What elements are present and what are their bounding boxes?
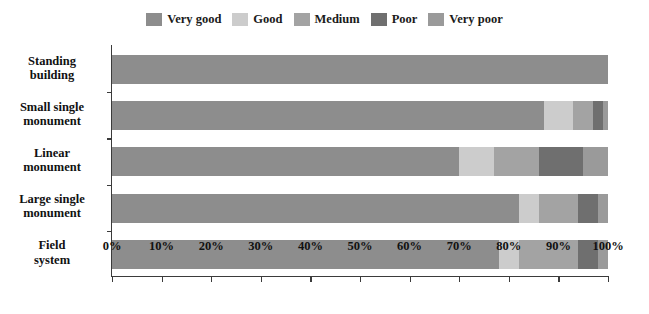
bar-segment-good[interactable] <box>459 147 494 176</box>
x-axis-tick <box>608 276 609 282</box>
x-axis-tick <box>459 276 460 282</box>
legend-swatch-good <box>232 13 248 26</box>
category-label-line: Linear <box>4 146 100 160</box>
legend-label: Poor <box>392 13 418 26</box>
y-axis-tick <box>107 138 112 139</box>
bar-segment-very-poor[interactable] <box>583 147 608 176</box>
y-axis-tick <box>107 92 112 93</box>
bar-segment-very-good[interactable] <box>112 194 519 223</box>
category-label-line: Large single <box>4 192 100 206</box>
x-axis-tick <box>360 276 361 282</box>
y-axis-tick <box>107 231 112 232</box>
legend-entry[interactable]: Poor <box>371 13 418 26</box>
category-label-line: Small single <box>4 100 100 114</box>
bar-segment-very-good[interactable] <box>112 55 608 84</box>
x-axis-tick-label: 20% <box>184 240 238 253</box>
category-label-small-single-monument: Small singlemonument <box>4 100 100 129</box>
x-axis-tick <box>310 276 311 282</box>
chart-legend: Very goodGoodMediumPoorVery poor <box>0 13 649 26</box>
x-axis-tick-label: 100% <box>581 240 635 253</box>
bar-row[interactable] <box>112 55 608 84</box>
bar-row[interactable] <box>112 194 608 223</box>
x-axis-tick <box>211 276 212 282</box>
category-label-line: Standing <box>4 54 100 68</box>
category-label-linear-monument: Linearmonument <box>4 146 100 175</box>
bar-segment-poor[interactable] <box>593 101 603 130</box>
bar-segment-good[interactable] <box>544 101 574 130</box>
legend-entry[interactable]: Very good <box>146 13 221 26</box>
x-axis-tick-label: 30% <box>234 240 288 253</box>
legend-entry[interactable]: Good <box>232 13 282 26</box>
x-axis-tick <box>162 276 163 282</box>
x-axis-tick <box>509 276 510 282</box>
legend-label: Good <box>253 13 282 26</box>
bar-segment-medium[interactable] <box>494 147 539 176</box>
category-label-line: monument <box>4 114 100 128</box>
bar-row[interactable] <box>112 147 608 176</box>
legend-swatch-very-poor <box>428 13 444 26</box>
legend-label: Very good <box>167 13 221 26</box>
x-axis-tick-label: 90% <box>531 240 585 253</box>
legend-swatch-poor <box>371 13 387 26</box>
legend-swatch-medium <box>294 13 310 26</box>
bar-segment-poor[interactable] <box>578 194 598 223</box>
x-axis-tick <box>558 276 559 282</box>
bar-segment-good[interactable] <box>519 194 539 223</box>
bar-row[interactable] <box>112 101 608 130</box>
bar-segment-very-poor[interactable] <box>598 194 608 223</box>
bar-segment-very-good[interactable] <box>112 147 459 176</box>
bar-segment-medium[interactable] <box>539 194 579 223</box>
category-label-standing-building: Standingbuilding <box>4 54 100 83</box>
x-axis-tick-label: 60% <box>383 240 437 253</box>
category-label-line: monument <box>4 206 100 220</box>
legend-label: Very poor <box>449 13 502 26</box>
category-label-large-single-monument: Large singlemonument <box>4 192 100 221</box>
x-axis-tick-label: 80% <box>482 240 536 253</box>
x-axis-tick-label: 50% <box>333 240 387 253</box>
bar-segment-very-poor[interactable] <box>603 101 608 130</box>
x-axis-tick <box>410 276 411 282</box>
y-axis-tick <box>107 185 112 186</box>
bar-segment-poor[interactable] <box>539 147 584 176</box>
category-label-line: monument <box>4 160 100 174</box>
bar-segment-very-good[interactable] <box>112 101 544 130</box>
x-axis-tick-label: 10% <box>135 240 189 253</box>
legend-entry[interactable]: Medium <box>294 13 360 26</box>
x-axis-tick-label: 0% <box>85 240 139 253</box>
legend-label: Medium <box>315 13 360 26</box>
legend-entry[interactable]: Very poor <box>428 13 502 26</box>
bar-segment-medium[interactable] <box>573 101 593 130</box>
x-axis-tick <box>112 276 113 282</box>
category-label-line: building <box>4 68 100 82</box>
x-axis-tick <box>261 276 262 282</box>
category-label-line: system <box>4 253 100 267</box>
x-axis-tick-label: 40% <box>283 240 337 253</box>
x-axis-tick-label: 70% <box>432 240 486 253</box>
legend-swatch-very-good <box>146 13 162 26</box>
